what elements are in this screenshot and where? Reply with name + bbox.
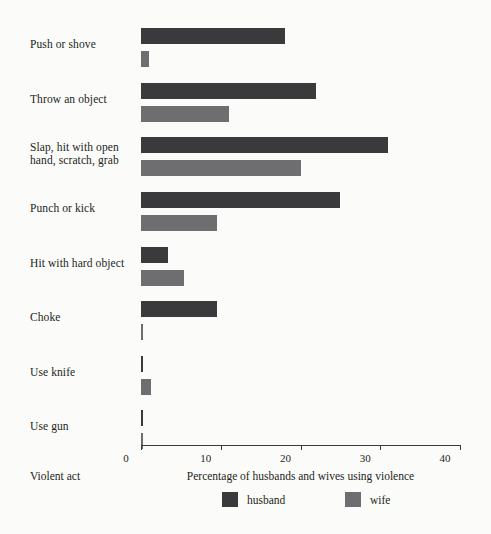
legend-item-husband[interactable]: husband — [222, 492, 285, 507]
x-tick-30 — [380, 445, 381, 450]
category-label-push-or-shove: Push or shove — [30, 38, 138, 51]
plot-area — [141, 18, 460, 445]
bar-wife-6 — [141, 379, 151, 395]
category-label-text: Throw an object — [30, 93, 107, 105]
bar-husband-4 — [141, 247, 168, 263]
x-axis-title: Percentage of husbands and wives using v… — [141, 470, 460, 482]
legend-swatch-wife — [345, 492, 361, 507]
legend-item-wife[interactable]: wife — [345, 492, 390, 507]
bar-husband-5 — [141, 301, 217, 317]
category-label-text: Hit with hard object — [30, 257, 124, 269]
bar-wife-1 — [141, 106, 229, 122]
category-label-text: Use knife — [30, 366, 75, 378]
chart-legend: husbandwife — [141, 492, 460, 514]
x-tick-0 — [141, 445, 142, 450]
category-label-use-knife: Use knife — [30, 366, 138, 379]
bar-husband-7 — [141, 410, 143, 426]
category-label-hit-with-hard-object: Hit with hard object — [30, 257, 138, 270]
bar-wife-3 — [141, 215, 217, 231]
bar-husband-1 — [141, 83, 316, 99]
legend-label-husband: husband — [247, 494, 285, 506]
x-tick-10 — [221, 445, 222, 450]
x-tick-label-40: 40 — [430, 452, 460, 464]
category-label-punch-or-kick: Punch or kick — [30, 202, 138, 215]
legend-swatch-husband — [222, 492, 238, 507]
bar-husband-2 — [141, 137, 388, 153]
category-label-slap-hit-open-hand: Slap, hit with open hand, scratch, grab — [30, 141, 138, 167]
bar-husband-3 — [141, 192, 340, 208]
category-label-text: Use gun — [30, 420, 69, 432]
category-label-throw-an-object: Throw an object — [30, 93, 138, 106]
bar-wife-5 — [141, 324, 143, 340]
bar-chart: Push or shove Throw an object Slap, hit … — [0, 0, 491, 534]
bar-husband-0 — [141, 28, 285, 44]
bar-wife-0 — [141, 51, 149, 67]
category-label-text-line2: hand, scratch, grab — [30, 154, 119, 166]
category-label-text-line1: Slap, hit with open — [30, 141, 119, 153]
category-label-text: Choke — [30, 311, 61, 323]
category-label-choke: Choke — [30, 311, 138, 324]
x-tick-label-30: 30 — [350, 452, 380, 464]
category-label-text: Push or shove — [30, 38, 96, 50]
x-tick-20 — [301, 445, 302, 450]
bar-husband-6 — [141, 356, 143, 372]
legend-label-wife: wife — [370, 494, 390, 506]
bar-wife-2 — [141, 160, 301, 176]
x-tick-label-0: 0 — [111, 452, 141, 464]
category-label-use-gun: Use gun — [30, 420, 138, 433]
x-tick-label-10: 10 — [191, 452, 221, 464]
bar-wife-4 — [141, 270, 184, 286]
x-tick-40 — [460, 445, 461, 450]
y-axis-title: Violent act — [30, 470, 80, 482]
category-label-text: Punch or kick — [30, 202, 95, 214]
x-tick-label-20: 20 — [271, 452, 301, 464]
